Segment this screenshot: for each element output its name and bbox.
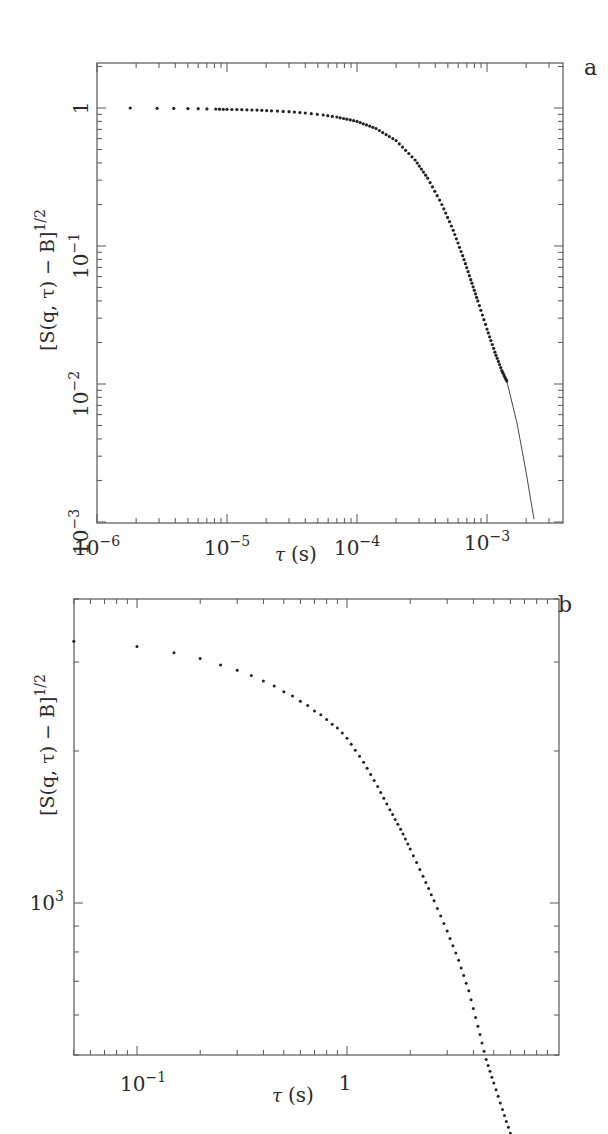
data-point [245,108,248,111]
data-point [293,111,296,114]
data-point [235,108,238,111]
data-point [473,289,476,292]
data-point [398,142,401,145]
data-point [366,767,369,770]
panel-a-x-axis-label: τ(s) [275,542,317,566]
panel-b-xtick-label: 10−1 [120,1069,166,1096]
data-point [455,237,458,240]
data-point [322,113,325,116]
data-point [287,110,290,113]
panel-a-xtick-label: 10−3 [464,528,510,555]
data-point [359,121,362,124]
data-point [503,1114,506,1117]
data-point [316,113,319,116]
data-point [430,893,433,896]
data-point [415,861,418,864]
data-point [236,669,239,672]
panel-a-ytick-label: 1 [69,102,93,115]
panel-a-xtick-label: 10−5 [204,533,250,560]
data-point [404,838,407,841]
data-point [406,842,409,845]
data-point [418,868,421,871]
data-point [325,718,328,721]
panel-a-fit-line [507,381,534,519]
panel-b-label: b [558,592,572,617]
data-point [492,347,495,350]
data-point [431,185,434,188]
data-point [422,875,425,878]
data-point [429,181,432,184]
data-point [401,146,404,149]
data-point [336,727,339,730]
data-point [299,700,302,703]
data-point [335,115,338,118]
data-point [490,1076,493,1079]
data-point [442,922,445,925]
data-point [354,749,357,752]
data-point [469,278,472,281]
data-point [479,309,482,312]
data-point [282,690,285,693]
data-point [136,645,139,648]
data-point [214,108,217,111]
data-point [501,1108,504,1111]
data-point [346,737,349,740]
data-point [461,254,464,257]
data-point [388,135,391,138]
data-point [197,107,200,110]
data-point [358,755,361,758]
data-point [474,292,477,295]
panel-b-y-ticks [74,599,559,1055]
panel-a-label: a [584,55,597,80]
data-point [394,818,397,821]
data-point [420,168,423,171]
data-point [497,1095,500,1098]
data-point [454,952,457,955]
data-point [355,120,358,123]
figure: 10−6 10−5 10−4 10−3 τ(s) 1 10−1 10−2 10−… [0,0,608,1134]
data-point [498,363,501,366]
data-point [404,149,407,152]
panel-b-x-axis-label: τ(s) [272,1083,314,1107]
data-point [472,285,475,288]
data-point [491,343,494,346]
data-point [385,133,388,136]
data-point [492,1082,495,1085]
data-point [488,335,491,338]
data-point [172,107,175,110]
data-point [310,112,313,115]
data-point [450,224,453,227]
data-point [465,266,468,269]
data-point [396,823,399,826]
data-point [260,109,263,112]
data-point [365,123,368,126]
data-point [444,212,447,215]
data-point [456,241,459,244]
data-point [371,126,374,129]
data-point [475,296,478,299]
data-point [453,233,456,236]
data-point [379,791,382,794]
data-point [262,680,265,683]
data-point [391,813,394,816]
data-point [414,158,417,161]
data-point [487,1064,490,1067]
data-point [451,944,454,947]
data-point [373,779,376,782]
data-point [467,270,470,273]
data-point [265,109,268,112]
data-point [418,165,421,168]
data-point [276,110,279,113]
data-point [436,907,439,910]
data-point [468,274,471,277]
data-point [507,1126,510,1129]
data-point [369,773,372,776]
data-point [407,152,410,155]
data-point [433,899,436,902]
data-point [460,966,463,969]
panel-a-ytick-label: 10−1 [66,233,93,279]
data-point [470,282,473,285]
data-point [493,351,496,354]
data-point [381,131,384,134]
data-point [448,220,451,223]
